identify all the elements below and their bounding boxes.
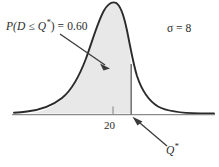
sigma-value: 8 <box>185 22 191 34</box>
probability-label: P(D ≤ Q*) = 0.60 <box>6 21 88 33</box>
probability-quantile: Q <box>38 20 46 32</box>
qstar-star: * <box>174 141 178 151</box>
x-axis-tick-label: 20 <box>104 120 115 131</box>
probability-value: 0.60 <box>67 20 88 32</box>
sigma-label: σ = 8 <box>167 23 191 35</box>
qstar-label: Q* <box>166 145 179 157</box>
sigma-equals: = <box>173 22 185 34</box>
probability-close: ) = <box>51 20 67 32</box>
probability-prefix: P( <box>6 20 17 32</box>
qstar-annotation-arrow <box>133 117 168 146</box>
probability-relation: ≤ <box>25 20 37 32</box>
